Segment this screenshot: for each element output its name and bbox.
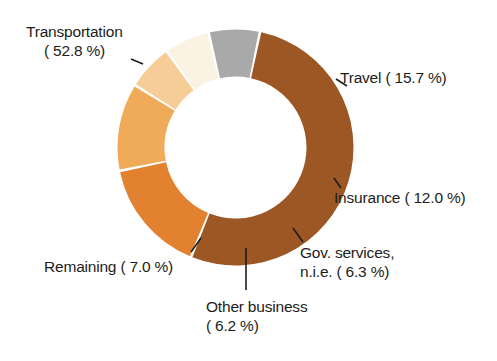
slice-label-insurance-line1: Insurance ( 12.0 %) [334, 189, 465, 206]
leader-line-transportation [131, 59, 143, 64]
slice-travel[interactable] [120, 162, 208, 256]
slice-label-remaining: Remaining ( 7.0 %) [44, 257, 173, 276]
slice-label-other-business-line1: Other business [206, 298, 307, 315]
slice-label-remaining-line1: Remaining ( 7.0 %) [44, 258, 173, 275]
slice-label-transportation-line1: Transportation [26, 23, 123, 40]
slice-remaining[interactable] [210, 30, 259, 79]
slice-transportation[interactable] [192, 32, 353, 265]
slice-label-transportation-line2: ( 52.8 %) [26, 41, 123, 60]
slice-label-travel: Travel ( 15.7 %) [340, 68, 446, 87]
slice-label-gov-services-line1: Gov. services, [300, 244, 394, 261]
slice-label-gov-services-line2: n.i.e. ( 6.3 %) [300, 262, 394, 281]
donut-chart: Transportation ( 52.8 %) Travel ( 15.7 %… [0, 0, 497, 361]
slice-label-travel-line1: Travel ( 15.7 %) [340, 69, 446, 86]
slice-label-other-business: Other business ( 6.2 %) [206, 297, 307, 335]
slice-label-other-business-line2: ( 6.2 %) [206, 316, 307, 335]
slice-label-transportation: Transportation ( 52.8 %) [26, 22, 123, 60]
slice-label-insurance: Insurance ( 12.0 %) [334, 188, 465, 207]
slice-label-gov-services: Gov. services, n.i.e. ( 6.3 %) [300, 243, 394, 281]
